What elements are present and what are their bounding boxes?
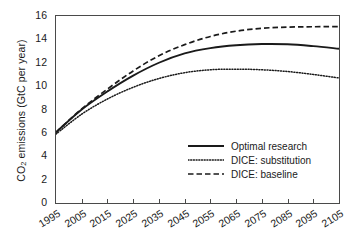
- x-tick-label: 1995: [35, 207, 63, 230]
- legend-label: DICE: substitution: [231, 155, 311, 166]
- y-tick-label: 14: [25, 33, 47, 43]
- legend: Optimal researchDICE: substitutionDICE: …: [188, 139, 311, 181]
- x-tick-label: 2015: [86, 207, 114, 230]
- legend-label: DICE: baseline: [231, 169, 298, 180]
- legend-line-sample: [188, 140, 224, 152]
- x-tick-mark: [313, 199, 314, 203]
- y-tick-label: 10: [25, 80, 47, 90]
- legend-item: DICE: substitution: [188, 153, 311, 167]
- y-tick-label: 12: [25, 57, 47, 67]
- x-tick-label: 2045: [163, 207, 191, 230]
- x-tick-mark: [159, 199, 160, 203]
- y-tick-label: 6: [25, 127, 47, 137]
- x-tick-label: 2075: [241, 207, 269, 230]
- x-tick-label: 2105: [318, 207, 346, 230]
- x-tick-label: 2035: [138, 207, 166, 230]
- legend-label: Optimal research: [231, 141, 307, 152]
- x-tick-mark: [82, 199, 83, 203]
- legend-line-sample: [188, 154, 224, 166]
- y-axis-title-subscript: 2: [19, 161, 28, 165]
- x-tick-mark: [133, 199, 134, 203]
- x-tick-mark: [262, 199, 263, 203]
- y-tick-label: 8: [25, 104, 47, 114]
- x-tick-label: 2025: [112, 207, 140, 230]
- y-tick-label: 2: [25, 174, 47, 184]
- x-tick-mark: [288, 199, 289, 203]
- x-tick-mark: [107, 199, 108, 203]
- x-tick-mark: [339, 199, 340, 203]
- x-tick-label: 2065: [215, 207, 243, 230]
- y-tick-label: 0: [25, 197, 47, 207]
- x-tick-label: 2005: [61, 207, 89, 230]
- legend-item: DICE: baseline: [188, 167, 311, 181]
- series-line: [56, 69, 339, 134]
- legend-line-sample: [188, 168, 224, 180]
- legend-item: Optimal research: [188, 139, 311, 153]
- y-tick-label: 4: [25, 150, 47, 160]
- figure: CO2 emissions (GtC per year) 02468101214…: [0, 0, 357, 241]
- x-tick-label: 2055: [189, 207, 217, 230]
- series-line: [56, 44, 339, 132]
- y-tick-label: 16: [25, 10, 47, 20]
- x-tick-label: 2095: [292, 207, 320, 230]
- x-tick-mark: [210, 199, 211, 203]
- x-tick-label: 2085: [266, 207, 294, 230]
- x-tick-mark: [236, 199, 237, 203]
- x-tick-mark: [185, 199, 186, 203]
- series-line: [56, 27, 339, 133]
